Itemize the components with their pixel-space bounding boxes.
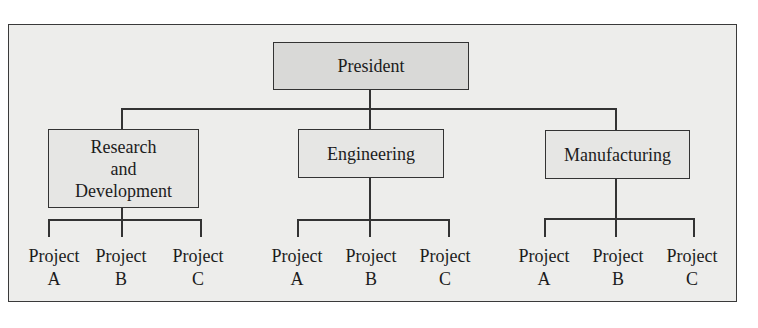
department-box-research-development: Research and Development — [48, 129, 199, 208]
connector — [297, 219, 299, 237]
project-label: Project — [331, 245, 411, 268]
project-label: Project — [257, 245, 337, 268]
project-letter: B — [578, 268, 658, 291]
project-node: ProjectB — [578, 245, 658, 291]
president-box: President — [273, 42, 469, 90]
project-label: Project — [504, 245, 584, 268]
project-node: ProjectA — [504, 245, 584, 291]
connector — [121, 207, 123, 237]
project-label: Project — [81, 245, 161, 268]
project-label: Project — [405, 245, 485, 268]
project-node: ProjectC — [405, 245, 485, 291]
project-label: Project — [652, 245, 732, 268]
project-node: ProjectC — [158, 245, 238, 291]
project-letter: B — [81, 268, 161, 291]
project-letter: A — [257, 268, 337, 291]
project-node: ProjectB — [331, 245, 411, 291]
department-label-line: and — [111, 158, 137, 180]
connector — [121, 108, 617, 110]
connector — [369, 177, 371, 237]
department-box-engineering: Engineering — [298, 129, 444, 178]
connector — [48, 219, 201, 221]
project-node: ProjectA — [257, 245, 337, 291]
connector — [369, 89, 371, 130]
project-letter: C — [405, 268, 485, 291]
connector — [693, 218, 695, 237]
project-letter: C — [652, 268, 732, 291]
project-letter: C — [158, 268, 238, 291]
department-label-line: Research — [91, 136, 157, 158]
department-label: Engineering — [327, 143, 415, 165]
department-label-line: Development — [75, 180, 172, 202]
president-label: President — [338, 55, 405, 77]
connector — [448, 219, 450, 237]
department-box-manufacturing: Manufacturing — [545, 130, 690, 179]
department-label: Manufacturing — [564, 144, 671, 166]
connector — [615, 108, 617, 130]
connector — [297, 219, 449, 221]
connector — [544, 218, 694, 220]
connector — [48, 219, 50, 237]
connector — [121, 108, 123, 130]
project-label: Project — [578, 245, 658, 268]
connector — [615, 178, 617, 237]
project-node: ProjectC — [652, 245, 732, 291]
project-node: ProjectB — [81, 245, 161, 291]
project-letter: B — [331, 268, 411, 291]
project-letter: A — [504, 268, 584, 291]
project-label: Project — [158, 245, 238, 268]
connector — [200, 219, 202, 237]
connector — [544, 218, 546, 237]
